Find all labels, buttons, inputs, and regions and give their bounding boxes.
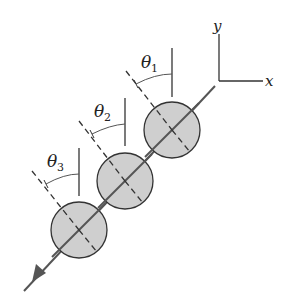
arrow-head-icon xyxy=(32,264,46,282)
coordinate-axes: y x xyxy=(212,17,274,90)
angle-label-theta-1: θ 1 xyxy=(141,52,158,75)
angle-label-theta-2: θ 2 xyxy=(94,101,111,124)
svg-text:θ: θ xyxy=(94,101,104,121)
svg-text:3: 3 xyxy=(57,161,64,174)
disk-3 xyxy=(32,148,107,258)
y-axis-label: y xyxy=(212,17,222,35)
svg-text:θ: θ xyxy=(141,52,151,72)
pendulum-chain-diagram: y x θ 1 θ 2 xyxy=(0,0,281,306)
svg-text:2: 2 xyxy=(104,111,111,124)
svg-text:θ: θ xyxy=(47,151,57,171)
angle-label-theta-3: θ 3 xyxy=(47,151,64,174)
disk-2 xyxy=(79,98,153,209)
x-axis-label: x xyxy=(265,72,274,90)
disk-1 xyxy=(126,48,200,158)
svg-text:1: 1 xyxy=(151,62,158,75)
